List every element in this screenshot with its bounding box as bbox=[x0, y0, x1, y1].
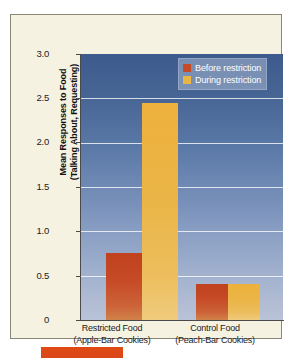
legend-swatch-before-icon bbox=[183, 64, 191, 72]
chart-panel: Mean Responses to Food (Talking About, R… bbox=[10, 14, 282, 339]
plot-area: Before restriction During restriction bbox=[81, 54, 283, 320]
bar-control-before bbox=[196, 284, 228, 320]
legend-item-during: During restriction bbox=[183, 74, 261, 86]
y-axis-title: Mean Responses to Food (Talking About, R… bbox=[58, 22, 80, 222]
y-axis-title-line2: (Talking About, Requesting) bbox=[69, 64, 79, 180]
y-tick-label-0.5: 0.5 bbox=[19, 270, 49, 281]
y-tick-label-2.5: 2.5 bbox=[19, 92, 49, 103]
bar-restricted-during bbox=[142, 103, 178, 320]
gridline-1.0 bbox=[81, 231, 283, 232]
y-tick-label-1.5: 1.5 bbox=[19, 181, 49, 192]
bar-restricted-before bbox=[106, 253, 142, 320]
x-category-label-control: Control Food (Peach-Bar Cookies) bbox=[155, 323, 275, 346]
legend-label-before: Before restriction bbox=[195, 63, 261, 73]
figure-container: Mean Responses to Food (Talking About, R… bbox=[0, 0, 294, 362]
y-axis-title-line1: Mean Responses to Food bbox=[58, 69, 68, 176]
y-tick-label-2.0: 2.0 bbox=[19, 136, 49, 147]
accent-bar bbox=[41, 347, 123, 358]
legend-swatch-during-icon bbox=[183, 76, 191, 84]
y-tick-label-3.0: 3.0 bbox=[19, 48, 49, 59]
x-category-control-line1: Control Food bbox=[190, 323, 240, 333]
x-category-control-line2: (Peach-Bar Cookies) bbox=[155, 335, 275, 347]
x-category-label-restricted: Restricted Food (Apple-Bar Cookies) bbox=[52, 323, 172, 346]
y-tick-label-0: 0 bbox=[19, 314, 49, 325]
legend-item-before: Before restriction bbox=[183, 62, 261, 74]
gridline-2.5 bbox=[81, 98, 283, 99]
x-category-restricted-line2: (Apple-Bar Cookies) bbox=[52, 335, 172, 347]
y-tick-label-1.0: 1.0 bbox=[19, 225, 49, 236]
legend-label-during: During restriction bbox=[195, 75, 261, 85]
chart-legend: Before restriction During restriction bbox=[178, 58, 267, 90]
x-category-restricted-line1: Restricted Food bbox=[82, 323, 143, 333]
bar-control-during bbox=[228, 284, 260, 320]
gridline-1.5 bbox=[81, 187, 283, 188]
x-axis-line bbox=[80, 320, 284, 321]
gridline-2.0 bbox=[81, 143, 283, 144]
